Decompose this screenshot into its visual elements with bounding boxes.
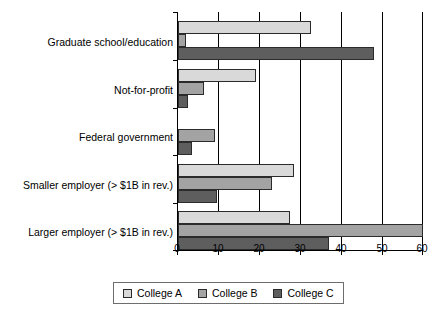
bar-group [178,12,423,60]
legend-swatch-icon [198,289,207,298]
y-tick-sep-5 [173,203,177,204]
legend-swatch-icon [123,289,132,298]
y-axis-tick-label: Not-for-profit [1,84,173,96]
bar-chart: Graduate school/education Not-for-profit… [0,0,447,314]
bar-college-c [178,95,188,108]
bar-college-a [178,69,256,82]
x-axis-tick-label: 50 [367,243,397,254]
y-axis-tick-label: Graduate school/education [1,36,173,48]
bar-college-b [178,177,272,190]
plot-area [177,12,423,251]
legend-item-college-a: College A [123,287,182,299]
bar-college-b [178,34,186,47]
y-axis-tick-label: Federal government [1,131,173,143]
bar-college-c [178,142,192,155]
x-axis-tick-label: 40 [326,243,356,254]
bar-group [178,155,423,203]
bar-group [178,108,423,155]
x-axis-tick-label: 30 [285,243,315,254]
bar-college-a [178,211,290,224]
y-tick-sep-2 [173,60,177,61]
legend-label: College B [212,287,258,299]
legend-label: College A [137,287,182,299]
legend-item-college-c: College C [273,287,333,299]
bar-group [178,60,423,108]
legend-swatch-icon [273,289,282,298]
x-axis-tick-label: 60 [407,243,437,254]
legend: College A College B College C [113,282,344,304]
y-tick-sep-4 [173,155,177,156]
y-axis-tick-label: Larger employer (> $1B in rev.) [1,226,173,238]
y-axis-tick-label: Smaller employer (> $1B in rev.) [1,179,173,191]
y-tick-sep-3 [173,108,177,109]
bar-college-a [178,21,311,34]
bar-college-c [178,47,374,60]
y-tick-sep-1 [173,12,177,13]
bar-college-b [178,82,204,95]
bar-college-c [178,190,217,203]
x-axis-tick-label: 10 [203,243,233,254]
bar-college-b [178,129,215,142]
bar-college-a [178,164,294,177]
bar-college-b [178,224,423,237]
x-axis-tick-label: 20 [244,243,274,254]
legend-label: College C [287,287,333,299]
legend-item-college-b: College B [198,287,258,299]
x-axis-tick-label: 0 [162,243,192,254]
